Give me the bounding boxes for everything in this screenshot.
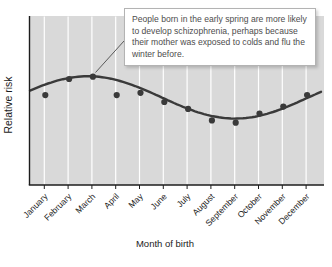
figure-schizophrenia-birth-month: JanuaryFebruaryMarchAprilMayJuneJulyAugu…	[0, 0, 332, 267]
data-point	[42, 92, 48, 98]
x-axis-title: Month of birth	[136, 238, 194, 249]
data-point	[137, 90, 143, 96]
y-axis-title: Relative risk	[2, 76, 14, 134]
data-point	[161, 99, 167, 105]
data-point	[185, 106, 191, 112]
annotation-callout: People born in the early spring are more…	[124, 8, 316, 66]
data-point	[209, 117, 215, 123]
month-tick-label: April	[102, 191, 121, 210]
data-point	[233, 120, 239, 126]
data-point	[256, 110, 262, 116]
data-point	[66, 76, 72, 82]
data-point	[280, 104, 286, 110]
month-tick-label: July	[175, 191, 193, 209]
month-tick-label: March	[73, 191, 97, 215]
annotation-text: People born in the early spring are more…	[132, 14, 307, 59]
month-tick-label: May	[126, 191, 145, 210]
data-point	[90, 74, 96, 80]
data-point	[114, 92, 120, 98]
month-tick-label: June	[148, 191, 168, 211]
data-point	[304, 92, 310, 98]
